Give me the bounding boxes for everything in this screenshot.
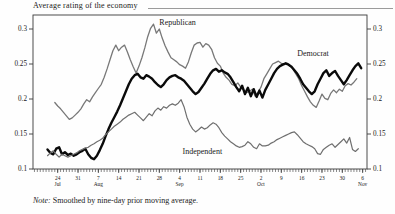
economy-line-chart: 0.10.150.20.250.3 0.10.150.20.250.3 24Ju… — [0, 0, 395, 214]
y-tick-label-right: 0.3 — [373, 25, 382, 33]
y-tick-label-left: 0.3 — [18, 25, 27, 33]
series-label-republican: Republican — [159, 18, 195, 27]
x-tick-day-label: 7 — [97, 175, 100, 181]
x-tick-month-label: Oct — [257, 181, 265, 187]
x-tick-day-label: 9 — [280, 175, 283, 181]
x-tick-month-label: Jul — [55, 181, 62, 187]
y-tick-label-right: 0.2 — [373, 95, 382, 103]
y-axis-left: 0.10.150.20.250.3 — [14, 25, 33, 173]
y-tick-label-left: 0.2 — [18, 95, 27, 103]
x-tick-day-label: 28 — [157, 175, 163, 181]
series-line-democrat — [48, 63, 362, 159]
x-tick-day-label: 21 — [136, 175, 142, 181]
y-tick-label-left: 0.15 — [14, 130, 27, 138]
x-tick-day-label: 16 — [299, 175, 305, 181]
x-tick-day-label: 31 — [75, 175, 81, 181]
x-axis: 24Jul317Aug1421284Sep1118252Oct91623306N… — [34, 169, 367, 187]
x-tick-day-label: 23 — [319, 175, 325, 181]
series-line-republican — [55, 24, 357, 119]
x-tick-month-label: Nov — [358, 181, 368, 187]
y-tick-label-right: 0.25 — [373, 60, 386, 68]
source-note: Note: Smoothed by nine-day prior moving … — [33, 196, 198, 205]
x-tick-day-label: 4 — [178, 175, 181, 181]
y-axis-right: 0.10.150.20.250.3 — [367, 25, 386, 173]
note-label: Note: — [33, 196, 51, 205]
y-tick-label-right: 0.1 — [373, 165, 382, 173]
figure: Average rating of the economy 0.10.150.2… — [0, 0, 395, 214]
x-tick-day-label: 18 — [218, 175, 224, 181]
plot-border — [33, 15, 367, 169]
x-tick-day-label: 11 — [197, 175, 202, 181]
x-tick-day-label: 14 — [116, 175, 122, 181]
y-tick-label-right: 0.15 — [373, 130, 386, 138]
x-tick-day-label: 24 — [55, 175, 61, 181]
x-tick-day-label: 30 — [340, 175, 346, 181]
plot-frame — [33, 15, 367, 169]
series-label-independent: Independent — [183, 147, 223, 156]
x-tick-month-label: Aug — [94, 181, 104, 187]
series-lines — [48, 24, 362, 159]
x-tick-month-label: Sep — [176, 181, 184, 187]
x-tick-day-label: 6 — [361, 175, 364, 181]
y-tick-label-left: 0.25 — [14, 60, 27, 68]
x-tick-day-label: 25 — [238, 175, 244, 181]
x-tick-day-label: 2 — [260, 175, 263, 181]
y-tick-label-left: 0.1 — [18, 165, 27, 173]
note-body: Smoothed by nine-day prior moving averag… — [51, 196, 198, 205]
series-label-democrat: Democrat — [297, 49, 329, 58]
